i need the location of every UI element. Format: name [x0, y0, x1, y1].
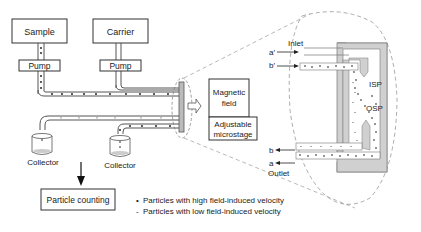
collector-label-left: Collector	[27, 158, 59, 167]
flow-diagram: Sample Carrier Pump Pump Col	[0, 0, 421, 232]
legend-marker-low: -	[136, 207, 139, 216]
zoom-arrow-icon	[188, 99, 201, 113]
magnetic-field-box	[209, 79, 249, 117]
a-label: a	[269, 159, 274, 168]
sample-label: Sample	[24, 27, 55, 37]
down-arrow-icon	[77, 176, 85, 186]
diagram-canvas: Sample Carrier Pump Pump Col	[0, 0, 421, 232]
chip-plate	[179, 82, 184, 132]
osp-label: OSP	[366, 104, 383, 113]
inlet-label: Inlet	[288, 39, 304, 48]
microstage-label-1: Adjustable	[214, 120, 252, 129]
b-label: b	[269, 146, 274, 155]
collector-label-right: Collector	[104, 161, 136, 170]
magnetic-field-label-1: Magnetic	[213, 88, 245, 97]
carrier-label: Carrier	[107, 27, 135, 37]
collector-left	[32, 134, 52, 155]
b-prime-label: b′	[269, 61, 275, 70]
particle-counting-label: Particle counting	[47, 195, 110, 205]
collector-right	[110, 136, 130, 157]
a-prime-label: a′	[269, 48, 275, 57]
magnetic-field-label-2: field	[222, 99, 237, 108]
legend-text-low: Particles with low field-induced velocit…	[143, 207, 281, 216]
legend-text-high: Particles with high field-induced veloci…	[143, 196, 284, 205]
legend-marker-high: •	[136, 196, 139, 205]
sample-pump-label: Pump	[28, 61, 50, 71]
carrier-pump-label: Pump	[109, 61, 131, 71]
outlet-label: Outlet	[268, 169, 290, 178]
microstage-label-2: microstage	[213, 130, 253, 139]
light-particle-dots	[60, 118, 162, 119]
isp-label: ISP	[369, 80, 382, 89]
